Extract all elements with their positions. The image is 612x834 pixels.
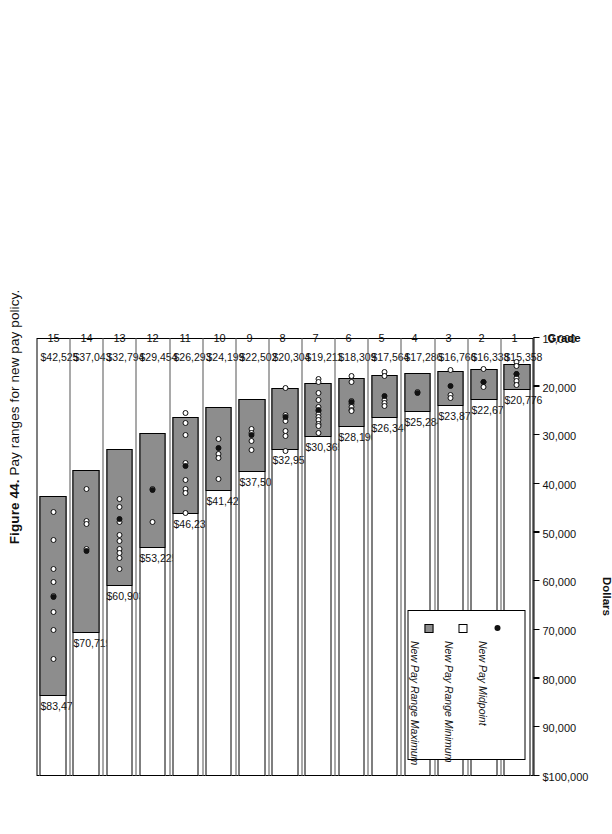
pay-range-max-label: $20,776 [504,394,542,406]
legend-min-swatch-icon [458,624,467,633]
value-axis-tick-label: 30,000 [542,430,576,442]
pay-midpoint-marker [414,390,420,396]
employee-salary-point [282,448,288,454]
grade-row-divider [334,338,335,776]
grade-axis-label: 1 [511,332,517,344]
figure-title: Figure 44. Pay ranges for new pay policy… [6,0,21,834]
pay-range-white-box [371,375,398,776]
value-axis-tick-label: 40,000 [542,479,576,491]
employee-salary-point [116,504,122,510]
employee-salary-point [480,366,486,372]
grade-axis-label: 4 [411,332,417,344]
chart-legend: New Pay Range MaximumNew Pay Range Minim… [407,610,525,760]
grade-row-divider [400,338,401,776]
legend-item-label: New Pay Range Minimum [442,641,454,762]
grade-row-divider [135,338,136,776]
employee-salary-point [215,476,221,482]
pay-range-min-label: $24,199 [206,351,244,363]
grade-row-divider [202,338,203,776]
grade-axis-label: 6 [345,332,351,344]
pay-range-min-label: $26,293 [173,351,211,363]
employee-salary-point [248,447,254,453]
pay-range-min-label: $22,502 [239,351,277,363]
legend-midpoint-dot-icon [494,625,500,631]
value-axis-tick-label: 70,000 [542,625,576,637]
grade-axis-label: 9 [246,332,252,344]
value-axis-tick-label: 60,000 [542,576,576,588]
employee-salary-point [83,486,89,492]
category-axis-title: Grade [547,332,580,344]
pay-range-min-label: $20,304 [272,351,310,363]
legend-max-swatch-icon [424,624,433,633]
employee-salary-point [447,367,453,373]
figure-number: Figure 44. [6,479,21,544]
grade-row-divider [268,338,269,776]
pay-range-min-label: $37,043 [73,351,111,363]
grade-axis-label: 3 [445,332,451,344]
value-axis-tick [533,775,539,776]
pay-midpoint-marker [447,383,453,389]
pay-midpoint-marker [182,463,188,469]
employee-salary-point [282,385,288,391]
legend-item-label: New Pay Midpoint [476,641,488,726]
employee-salary-point [116,555,122,561]
employee-salary-point [83,521,89,527]
value-axis-tick [533,580,539,581]
employee-salary-point [50,656,56,662]
value-axis-tick-label: 50,000 [542,528,576,540]
value-axis-tick-label: 80,000 [542,674,576,686]
grade-axis-label: 5 [378,332,384,344]
value-axis-tick [533,337,539,338]
pay-midpoint-marker [248,432,254,438]
value-axis-tick [533,483,539,484]
employee-salary-point [50,627,56,633]
pay-range-min-label: $18,309 [338,351,376,363]
grade-axis-label: 11 [179,332,190,344]
employee-salary-point [381,373,387,379]
grade-row-divider [367,338,368,776]
pay-midpoint-marker [215,445,221,451]
grade-row-divider [169,338,170,776]
value-axis-tick [533,531,539,532]
grade-axis-label: 12 [146,332,158,344]
value-axis-tick-label: 20,000 [542,382,576,394]
value-axis-tick [533,726,539,727]
pay-midpoint-marker [149,487,155,493]
pay-range-min-label: $15,358 [504,351,542,363]
pay-midpoint-marker [50,594,56,600]
employee-salary-point [116,538,122,544]
pay-range-min-label: $17,286 [404,351,442,363]
employee-salary-point [182,420,188,426]
employee-salary-point [182,490,188,496]
pay-range-min-label: $19,211 [305,351,342,363]
pay-midpoint-marker [381,393,387,399]
grade-axis-label: 15 [47,332,59,344]
pay-midpoint-marker [116,516,122,522]
value-axis-tick [533,385,539,386]
employee-salary-point [513,363,519,369]
pay-range-min-label: $16,338 [471,351,509,363]
employee-salary-point [381,403,387,409]
grade-row-divider [235,338,236,776]
grade-axis-label: 13 [113,332,125,344]
employee-salary-point [282,433,288,439]
grade-axis-label: 8 [279,332,285,344]
value-axis-title: Dollars [600,577,612,616]
value-axis-tick [533,677,539,678]
value-axis-tick-label: $100,000 [542,771,588,783]
value-axis-tick [533,434,539,435]
value-axis-tick [533,629,539,630]
employee-salary-point [348,379,354,385]
employee-salary-point [215,436,221,442]
employee-salary-point [182,477,188,483]
grade-row-divider [69,338,70,776]
value-axis-tick-label: 90,000 [542,722,576,734]
employee-salary-point [182,432,188,438]
pay-range-min-label: $42,525 [40,351,78,363]
pay-range-min-label: $16,766 [438,351,476,363]
employee-salary-point [315,423,321,429]
grade-row-divider [102,338,103,776]
grade-axis-label: 7 [312,332,318,344]
employee-salary-point [116,566,122,572]
grade-row-divider [301,338,302,776]
